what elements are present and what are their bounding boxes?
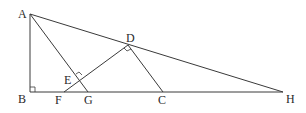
label-a: A [18, 7, 27, 21]
segment-df [64, 45, 128, 92]
label-e: E [64, 73, 71, 87]
label-c: C [158, 93, 166, 107]
label-g: G [84, 93, 93, 107]
geometry-diagram: A B C D E F G H [0, 0, 306, 113]
segment-dc [128, 45, 163, 92]
label-f: F [55, 93, 62, 107]
right-angle-mark-b [30, 87, 35, 92]
label-h: H [286, 92, 295, 106]
label-b: B [18, 92, 26, 106]
right-angle-mark-e [76, 72, 82, 75]
label-d: D [126, 31, 135, 45]
